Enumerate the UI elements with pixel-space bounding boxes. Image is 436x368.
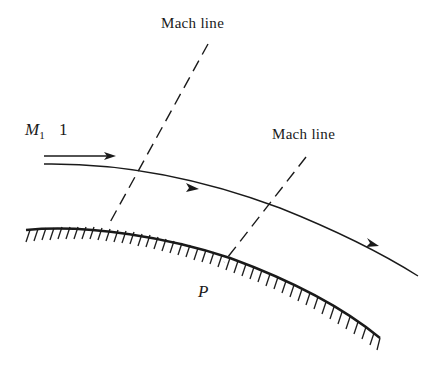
mach-value: 1 (59, 120, 68, 139)
mach-line-1 (108, 44, 208, 226)
diagram-graphics (0, 0, 436, 368)
mach-line-label-1: Mach line (161, 15, 224, 32)
streamline-arrowhead-2 (366, 238, 379, 247)
mach-line-diagram: Mach line Mach line M1 1 P (0, 0, 436, 368)
point-p-label: P (198, 282, 208, 302)
streamline-arrowhead-1 (186, 183, 199, 192)
freestream-arrow (44, 152, 116, 160)
mach-line-label-2: Mach line (272, 126, 335, 143)
mach-symbol: M (25, 120, 39, 139)
mach-line-2 (224, 157, 306, 262)
mach-subscript: 1 (39, 129, 45, 141)
freestream-mach-label: M1 1 (25, 120, 67, 141)
